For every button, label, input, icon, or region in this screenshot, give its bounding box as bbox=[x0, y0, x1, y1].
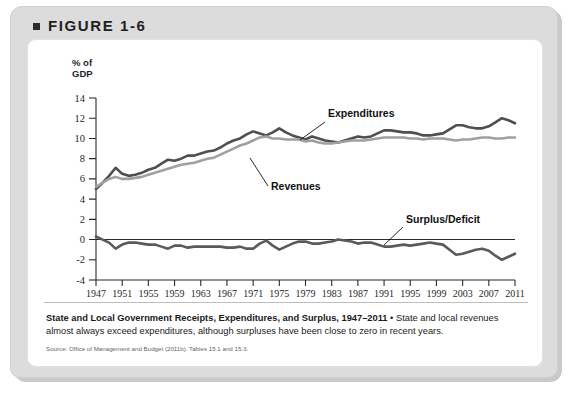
x-tick-label: 1963 bbox=[191, 288, 211, 299]
y-tick-label: 0 bbox=[80, 234, 85, 245]
y-tick-group: -4-202468101214 bbox=[75, 93, 97, 286]
x-tick-label: 1951 bbox=[112, 288, 132, 299]
annotation-group: ExpendituresRevenuesSurplus/Deficit bbox=[250, 107, 481, 245]
x-tick-label: 1947 bbox=[86, 288, 106, 299]
annotation-label-expenditures: Expenditures bbox=[328, 107, 395, 119]
figure-panel: -4-202468101214 194719511955195919631967… bbox=[27, 39, 543, 367]
square-bullet-icon bbox=[33, 23, 40, 30]
y-tick-label: 12 bbox=[75, 113, 86, 124]
annotation-label-surplus-deficit: Surplus/Deficit bbox=[406, 213, 481, 225]
series-line-expenditures bbox=[96, 118, 515, 189]
x-tick-label: 1955 bbox=[138, 288, 158, 299]
x-tick-label: 1995 bbox=[400, 288, 420, 299]
y-tick-label: -2 bbox=[76, 254, 85, 265]
x-tick-label: 1991 bbox=[374, 288, 394, 299]
x-tick-label: 1975 bbox=[269, 288, 289, 299]
x-tick-label: 1987 bbox=[348, 288, 368, 299]
line-chart: -4-202468101214 194719511955195919631967… bbox=[28, 40, 543, 302]
y-tick-label: 2 bbox=[80, 214, 85, 225]
y-tick-label: 6 bbox=[80, 173, 85, 184]
y-tick-label: 4 bbox=[80, 194, 86, 205]
source-note: Source: Office of Management and Budget … bbox=[46, 345, 526, 352]
figure-header: FIGURE 1-6 bbox=[11, 7, 557, 43]
x-tick-label: 2011 bbox=[505, 288, 525, 299]
x-tick-label: 1967 bbox=[217, 288, 237, 299]
x-tick-group: 1947195119551959196319671971197519791983… bbox=[86, 280, 525, 299]
y-tick-label: 10 bbox=[75, 133, 86, 144]
x-tick-label: 2003 bbox=[453, 288, 473, 299]
y-tick-label: 14 bbox=[75, 93, 86, 104]
chart-plot-area: -4-202468101214 194719511955195919631967… bbox=[28, 40, 543, 302]
caption-lead: State and Local Government Receipts, Exp… bbox=[46, 313, 388, 323]
y-axis-title-line1: % of bbox=[72, 57, 93, 68]
y-axis-title-line2: GDP bbox=[72, 68, 93, 79]
y-tick-label: -4 bbox=[76, 275, 85, 286]
caption-paragraph: State and Local Government Receipts, Exp… bbox=[46, 312, 526, 338]
x-tick-label: 1979 bbox=[296, 288, 316, 299]
x-tick-label: 1999 bbox=[426, 288, 446, 299]
figure-root: FIGURE 1-6 -4-202468101214 1947195119551… bbox=[0, 0, 578, 396]
x-tick-label: 2007 bbox=[479, 288, 499, 299]
figure-card: FIGURE 1-6 -4-202468101214 1947195119551… bbox=[10, 6, 558, 378]
y-tick-label: 8 bbox=[80, 153, 85, 164]
caption-area: State and Local Government Receipts, Exp… bbox=[28, 302, 543, 367]
figure-label: FIGURE 1-6 bbox=[48, 17, 147, 34]
x-tick-label: 1959 bbox=[165, 288, 185, 299]
caption-divider bbox=[44, 302, 528, 303]
annotation-leader-line bbox=[384, 227, 403, 245]
caption-separator: • bbox=[388, 313, 396, 323]
annotation-leader-line bbox=[250, 158, 268, 186]
x-tick-label: 1971 bbox=[243, 288, 263, 299]
x-tick-label: 1983 bbox=[322, 288, 342, 299]
annotation-label-revenues: Revenues bbox=[271, 180, 321, 192]
